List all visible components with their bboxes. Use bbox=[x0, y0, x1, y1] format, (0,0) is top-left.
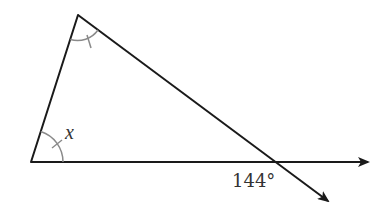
angle-x-label: x bbox=[64, 121, 74, 143]
angle-tick-bottom-left-vertex bbox=[52, 140, 62, 148]
triangle-side-right-extended-ray bbox=[78, 15, 328, 201]
angle-arc-bottom-left-vertex bbox=[41, 132, 63, 163]
triangle-diagram: x 144° bbox=[0, 0, 385, 216]
angle-arc-top-vertex bbox=[70, 30, 98, 41]
exterior-angle-label: 144° bbox=[232, 170, 275, 191]
